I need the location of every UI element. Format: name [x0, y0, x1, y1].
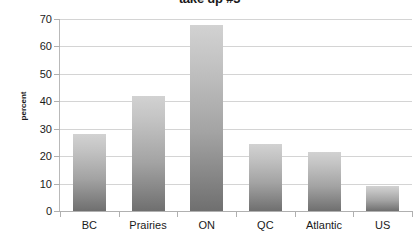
- y-axis-tick-label: 30: [4, 123, 52, 135]
- plot-area: [60, 19, 412, 211]
- x-axis-tick: [60, 212, 61, 217]
- x-axis-tick-label: Prairies: [129, 219, 166, 231]
- y-axis-tick: [54, 129, 60, 130]
- y-axis-tick-label: 20: [4, 150, 52, 162]
- y-axis-tick: [54, 46, 60, 47]
- y-axis-tick-label: 0: [4, 205, 52, 217]
- bar: [190, 25, 223, 212]
- bar: [249, 144, 282, 211]
- x-axis-tick-label: BC: [82, 219, 97, 231]
- y-axis-tick: [54, 184, 60, 185]
- x-axis-tick: [353, 212, 354, 217]
- bar: [73, 134, 106, 211]
- y-axis-tick: [54, 211, 60, 212]
- y-axis-tick: [54, 156, 60, 157]
- y-axis-tick: [54, 74, 60, 75]
- x-axis-tick: [236, 212, 237, 217]
- x-axis-tick: [119, 212, 120, 217]
- y-axis-tick: [54, 19, 60, 20]
- y-axis-tick-label: 10: [4, 178, 52, 190]
- x-axis-tick-label: QC: [257, 219, 274, 231]
- y-axis-tick-label: 50: [4, 68, 52, 80]
- gridline: [60, 156, 412, 157]
- y-axis-tick-label: 60: [4, 40, 52, 52]
- x-axis-tick: [412, 212, 413, 217]
- gridline: [60, 184, 412, 185]
- bar: [132, 96, 165, 211]
- bar: [308, 152, 341, 211]
- y-axis-tick-label: 70: [4, 13, 52, 25]
- x-axis-tick: [177, 212, 178, 217]
- gridline: [60, 129, 412, 130]
- gridline: [60, 19, 412, 20]
- bar-chart: take up #3 percent 010203040506070 BCPra…: [0, 0, 419, 242]
- gridline: [60, 101, 412, 102]
- x-axis-tick: [295, 212, 296, 217]
- bar: [366, 186, 399, 211]
- y-axis-tick-label: 40: [4, 95, 52, 107]
- x-axis-tick-label: US: [375, 219, 390, 231]
- x-axis-tick-label: ON: [198, 219, 215, 231]
- chart-title: take up #3: [0, 0, 419, 6]
- x-axis-tick-label: Atlantic: [306, 219, 342, 231]
- gridline: [60, 46, 412, 47]
- y-axis-tick-labels: 010203040506070: [0, 0, 52, 242]
- y-axis-tick: [54, 101, 60, 102]
- gridline: [60, 74, 412, 75]
